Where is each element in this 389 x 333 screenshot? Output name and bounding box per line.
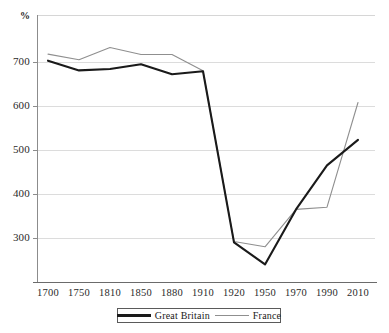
legend-item-great-britain: Great Britain bbox=[117, 310, 210, 321]
series-container bbox=[0, 0, 389, 333]
legend-label-france: France bbox=[253, 310, 281, 321]
series-line-france bbox=[48, 48, 358, 247]
legend-swatch-france bbox=[215, 315, 249, 316]
legend: Great Britain France bbox=[117, 308, 281, 323]
series-line-great-britain bbox=[48, 61, 358, 265]
legend-label-great-britain: Great Britain bbox=[155, 310, 210, 321]
x-tick-label-2010: 2010 bbox=[338, 287, 378, 298]
legend-swatch-great-britain bbox=[117, 314, 151, 316]
legend-item-france: France bbox=[215, 310, 281, 321]
line-chart: % 700 600 500 400 300 1700 1750 1810 185… bbox=[0, 0, 389, 333]
